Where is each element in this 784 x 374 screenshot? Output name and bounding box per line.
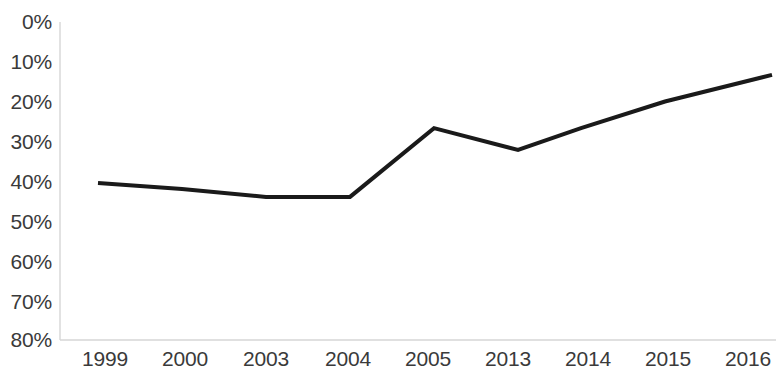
x-axis-tick-label: 2003 — [243, 348, 289, 369]
x-axis-tick-label: 2016 — [725, 348, 771, 369]
x-axis-tick-label: 2014 — [565, 348, 611, 369]
x-axis-tick-label: 2005 — [405, 348, 451, 369]
x-axis-tick-label: 1999 — [82, 348, 128, 369]
data-series-line — [98, 75, 772, 197]
x-axis-tick-label: 2000 — [162, 348, 208, 369]
line-chart: 0%10%20%30%40%50%60%70%80% 1999200020032… — [0, 0, 784, 374]
chart-plot-area — [0, 0, 784, 374]
x-axis-tick-label: 2015 — [645, 348, 691, 369]
x-axis-tick-labels: 199920002003200420052013201420152016 — [0, 348, 784, 374]
x-axis-tick-label: 2013 — [485, 348, 531, 369]
x-axis-tick-label: 2004 — [325, 348, 371, 369]
